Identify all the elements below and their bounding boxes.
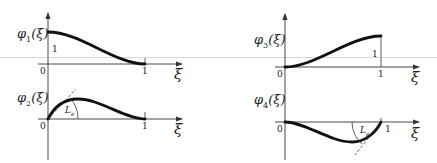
phi2-curve [48, 99, 145, 119]
phi4-angle-label: Le [360, 125, 370, 137]
phi1-value-label: 1 [52, 44, 58, 54]
phi2-plot [38, 89, 182, 119]
phi1-xi-label: ξ [174, 65, 182, 83]
phi1-x-end-label: 1 [142, 66, 148, 76]
phi3-origin-label: 0 [277, 69, 283, 79]
phi3-function-label: φ3(ξ) [254, 32, 286, 50]
phi1-function-label: φ1(ξ) [17, 26, 49, 44]
phi4-origin-label: 0 [277, 124, 283, 134]
diagram-svg [0, 0, 437, 163]
phi2-origin-label: 0 [40, 121, 46, 131]
phi3-xi-label: ξ [411, 68, 419, 86]
phi3-value-label: 1 [372, 49, 378, 59]
phi3-curve [285, 36, 381, 67]
phi1-curve [48, 32, 145, 64]
shape-functions-figure: φ1(ξ) 1 0 1 ξ φ2(ξ) Le 0 1 ξ φ3(ξ) 1 0 1… [0, 0, 437, 163]
phi1-plot [38, 32, 182, 64]
phi3-plot [275, 36, 419, 67]
phi3-x-end-label: 1 [378, 69, 384, 79]
phi2-function-label: φ2(ξ) [17, 90, 49, 108]
phi4-plot [275, 118, 419, 155]
phi2-angle-label: Le [65, 105, 75, 117]
phi2-x-end-label: 1 [142, 121, 148, 131]
phi4-xi-label: ξ [411, 124, 419, 142]
phi1-origin-label: 0 [40, 66, 46, 76]
phi4-function-label: φ4(ξ) [254, 92, 286, 110]
phi4-x-end-label: 1 [385, 124, 391, 134]
phi2-xi-label: ξ [174, 120, 182, 138]
